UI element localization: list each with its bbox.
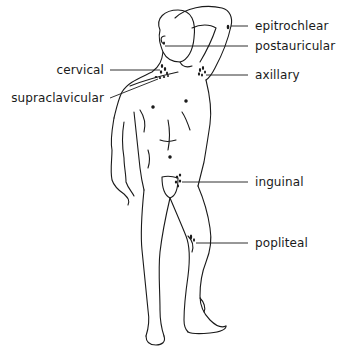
left-foot	[146, 336, 165, 345]
label-inguinal: inguinal	[255, 175, 304, 189]
node-cluster-postauricular	[163, 41, 165, 44]
node-cluster-cervical	[160, 64, 168, 75]
torso-left	[134, 112, 144, 190]
forearm-detail	[140, 110, 150, 168]
torso-right	[198, 80, 211, 186]
label-supraclavicular: supraclavicular	[11, 91, 104, 105]
raised-arm-inner	[192, 25, 216, 62]
left-leg-inner	[159, 198, 170, 336]
right-leg-inner	[170, 198, 189, 332]
left-leg-outer	[141, 190, 149, 336]
right-leg-outer	[198, 186, 226, 327]
node-cluster-epitrochlear	[227, 25, 230, 29]
label-popliteal: popliteal	[255, 236, 308, 250]
genital-outline	[162, 176, 178, 198]
leader-supraclavicular	[110, 79, 158, 98]
nipple-right	[185, 100, 187, 102]
node-cluster-popliteal	[190, 235, 195, 242]
left-arm-inner	[123, 122, 135, 196]
abs-detail	[160, 112, 190, 142]
nipple-left	[152, 106, 154, 108]
left-arm-outer	[111, 118, 129, 205]
label-epitrochlear: epitrochlear	[255, 19, 328, 33]
neck-right	[180, 62, 192, 67]
neck-left	[114, 52, 163, 118]
label-axillary: axillary	[255, 68, 300, 82]
navel	[169, 156, 171, 158]
abs-line	[168, 120, 170, 150]
node-cluster-axillary	[198, 66, 206, 77]
label-postauricular: postauricular	[255, 39, 335, 53]
label-cervical: cervical	[57, 63, 104, 77]
